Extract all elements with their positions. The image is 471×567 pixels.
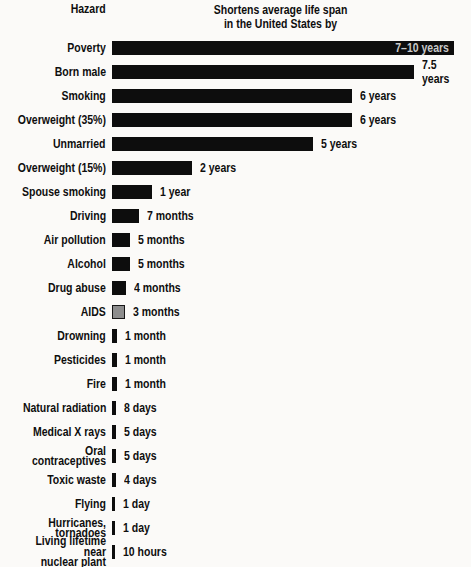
- hazard-label-text: Flying: [75, 499, 106, 510]
- value-label-text: 1 day: [123, 497, 150, 511]
- value-label: 3 months: [133, 305, 189, 319]
- bar-wrap: 1 month: [112, 329, 174, 343]
- hazard-label-text: Natural radiation: [23, 403, 106, 414]
- hazard-label-text: Overweight (15%): [18, 163, 106, 174]
- value-label: 1 day: [123, 521, 155, 535]
- hazard-label-text: Oral contraceptives: [17, 446, 106, 467]
- bar-wrap: 5 days: [112, 425, 162, 439]
- bar: [112, 257, 130, 271]
- bar: 7–10 years: [112, 41, 454, 55]
- value-label: 2 years: [200, 161, 243, 175]
- bar-wrap: 4 months: [112, 281, 190, 295]
- bar: [112, 305, 125, 319]
- value-label: 1 month: [125, 329, 174, 343]
- bar-wrap: 10 hours: [112, 545, 175, 559]
- value-label: 6 years: [360, 113, 403, 127]
- value-label: 6 years: [360, 89, 403, 103]
- bar-wrap: 4 days: [112, 473, 162, 487]
- figure-root: Hazard Shortens average life span in the…: [0, 0, 471, 567]
- hazard-label-text: Drug abuse: [48, 283, 106, 294]
- chart-row: Air pollution 5 months: [0, 228, 471, 252]
- bar-wrap: 5 months: [112, 233, 194, 247]
- bar: [112, 89, 352, 103]
- hazard-label: Driving: [0, 211, 106, 222]
- chart-rows: Poverty 7–10 years Born male 7.5 years S…: [0, 36, 471, 564]
- value-label: 1 year: [160, 185, 196, 199]
- bar: [112, 473, 116, 487]
- hazard-label: Fire: [0, 379, 106, 390]
- value-label-text: 6 years: [360, 89, 396, 103]
- value-label: 5 months: [138, 257, 194, 271]
- hazard-label-text: Air pollution: [44, 235, 106, 246]
- hazard-label-text: AIDS: [81, 307, 106, 318]
- chart-row: Pesticides 1 month: [0, 348, 471, 372]
- value-label-text: 2 years: [200, 161, 236, 175]
- hazard-label-text: Overweight (35%): [18, 115, 106, 126]
- bar-wrap: 5 years: [112, 137, 364, 151]
- value-label: 1 day: [123, 497, 155, 511]
- bar-wrap: 2 years: [112, 161, 243, 175]
- hazard-label-text: Drowning: [58, 331, 106, 342]
- bar-wrap: 1 day: [112, 497, 155, 511]
- hazard-label-text: Born male: [55, 67, 106, 78]
- hazard-label: Toxic waste: [0, 475, 106, 486]
- bar-wrap: 5 months: [112, 257, 194, 271]
- value-label-text: 5 years: [321, 137, 357, 151]
- bar: [112, 209, 139, 223]
- bar: [112, 497, 115, 511]
- bar: [112, 185, 152, 199]
- bar-wrap: 7 months: [112, 209, 203, 223]
- value-label: 5 days: [124, 449, 163, 463]
- value-label-text: 4 days: [124, 473, 157, 487]
- chart-row: Flying 1 day: [0, 492, 471, 516]
- bar: [112, 401, 116, 415]
- bar: [112, 281, 126, 295]
- hazard-label: Flying: [0, 499, 106, 510]
- bar: [112, 425, 116, 439]
- value-label-text: 5 months: [138, 257, 185, 271]
- chart-row: Poverty 7–10 years: [0, 36, 471, 60]
- hazard-label-text: Toxic waste: [47, 475, 106, 486]
- hazard-label: AIDS: [0, 307, 106, 318]
- hazard-label: Medical X rays: [0, 427, 106, 438]
- hazard-label: Overweight (15%): [0, 163, 106, 174]
- hazard-label: Drowning: [0, 331, 106, 342]
- hazard-label: Unmarried: [0, 139, 106, 150]
- hazard-label: Poverty: [0, 43, 106, 54]
- value-label: 10 hours: [123, 545, 175, 559]
- chart-row: Fire 1 month: [0, 372, 471, 396]
- chart-row: Natural radiation 8 days: [0, 396, 471, 420]
- hazard-label: Pesticides: [0, 355, 106, 366]
- hazard-label-text: Alcohol: [67, 259, 106, 270]
- value-label: 5 days: [124, 425, 163, 439]
- chart-row: Unmarried 5 years: [0, 132, 471, 156]
- value-label-text: 7.5 years: [422, 58, 463, 86]
- chart-row: Alcohol 5 months: [0, 252, 471, 276]
- hazard-label: Drug abuse: [0, 283, 106, 294]
- value-label-text: 7–10 years: [395, 41, 449, 55]
- hazard-label: Overweight (35%): [0, 115, 106, 126]
- bar-wrap: 1 month: [112, 377, 174, 391]
- bar-wrap: 6 years: [112, 113, 403, 127]
- hazard-label-text: Unmarried: [53, 139, 106, 150]
- bar-wrap: 1 month: [112, 353, 174, 367]
- chart-row: Overweight (35%) 6 years: [0, 108, 471, 132]
- bar-wrap: 3 months: [112, 305, 189, 319]
- chart-row: Toxic waste 4 days: [0, 468, 471, 492]
- hazard-label: Living lifetime near nuclear plant: [0, 536, 106, 567]
- bar: [112, 137, 313, 151]
- value-label-text: 4 months: [134, 281, 181, 295]
- chart-row: Smoking 6 years: [0, 84, 471, 108]
- value-label-text: 5 days: [124, 449, 157, 463]
- chart-row: Drug abuse 4 months: [0, 276, 471, 300]
- value-label: 5 years: [321, 137, 364, 151]
- value-label: 7.5 years: [422, 58, 471, 86]
- bar-wrap: 6 years: [112, 89, 403, 103]
- value-label: 1 month: [125, 377, 174, 391]
- value-label-text: 6 years: [360, 113, 396, 127]
- chart-row: Overweight (15%) 2 years: [0, 156, 471, 180]
- hazard-label: Natural radiation: [0, 403, 106, 414]
- hazard-label: Air pollution: [0, 235, 106, 246]
- bar: [112, 65, 414, 79]
- bar: [112, 353, 117, 367]
